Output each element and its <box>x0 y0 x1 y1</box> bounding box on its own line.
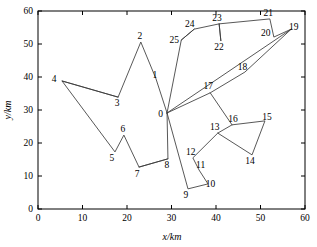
x-tick-label: 20 <box>122 213 132 223</box>
node-label-2: 2 <box>137 31 142 41</box>
node-label-7: 7 <box>135 169 140 179</box>
x-tick-label: 30 <box>167 213 177 223</box>
node-label-23: 23 <box>212 13 222 23</box>
network-route <box>62 81 118 97</box>
network-scatter-figure: 01020304050600102030405060 0123456789101… <box>0 0 317 247</box>
node-labels: 0123456789101112131415161718192021222324… <box>52 8 299 200</box>
node-label-4: 4 <box>52 74 57 84</box>
node-label-12: 12 <box>186 147 196 157</box>
node-label-1: 1 <box>153 70 158 80</box>
y-tick-label: 40 <box>24 72 34 82</box>
node-label-13: 13 <box>210 122 220 132</box>
node-label-8: 8 <box>165 160 170 170</box>
node-label-18: 18 <box>238 62 248 72</box>
y-tick-label: 0 <box>28 204 33 214</box>
node-label-24: 24 <box>185 19 195 29</box>
node-label-21: 21 <box>264 8 274 18</box>
y-tick-label: 50 <box>24 39 34 49</box>
node-label-14: 14 <box>245 156 255 166</box>
x-tick-label: 40 <box>211 213 221 223</box>
y-tick-label: 30 <box>24 105 34 115</box>
node-label-0: 0 <box>158 109 163 119</box>
node-label-5: 5 <box>110 153 115 163</box>
node-label-15: 15 <box>262 112 272 122</box>
x-tick-label: 0 <box>36 213 41 223</box>
y-tick-label: 10 <box>24 171 34 181</box>
y-tick-label: 60 <box>24 6 34 16</box>
x-tick-label: 10 <box>78 213 88 223</box>
node-label-11: 11 <box>196 160 205 170</box>
x-tick-label: 60 <box>300 213 310 223</box>
node-label-22: 22 <box>214 42 224 52</box>
node-label-20: 20 <box>261 28 271 38</box>
y-tick-label: 20 <box>24 138 34 148</box>
node-label-9: 9 <box>184 190 189 200</box>
network-route <box>167 19 291 113</box>
node-label-16: 16 <box>228 114 238 124</box>
plot-canvas: 01020304050600102030405060 0123456789101… <box>0 0 317 247</box>
network-route <box>181 29 194 40</box>
node-label-6: 6 <box>121 124 126 134</box>
x-axis-title: x/km <box>162 231 182 242</box>
node-label-10: 10 <box>206 179 216 189</box>
node-label-19: 19 <box>289 22 299 32</box>
node-label-25: 25 <box>170 35 180 45</box>
x-tick-label: 50 <box>256 213 266 223</box>
y-axis-title: y/km <box>2 101 13 121</box>
network-route <box>167 29 291 113</box>
node-label-17: 17 <box>203 81 213 91</box>
node-label-3: 3 <box>115 98 120 108</box>
